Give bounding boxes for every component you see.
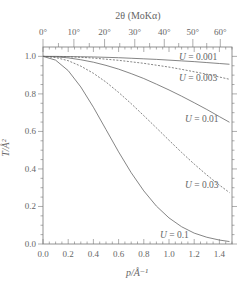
- y-tick-label: 0.4: [25, 164, 37, 174]
- top-tick-label: 50°: [187, 27, 200, 37]
- y-tick-label: 0.0: [25, 239, 37, 249]
- y-tick-label: 0.2: [25, 201, 36, 211]
- x-axis-title: p/Å⁻¹: [125, 267, 148, 278]
- y-axis-title: T/Å²: [0, 138, 11, 156]
- curve-label: U = 0.001: [179, 52, 218, 62]
- debye-waller-chart: 0°10°20°30°40°50°60° 2θ (MoKα) 0.00.20.4…: [0, 0, 250, 286]
- top-tick-label: 20°: [98, 27, 111, 37]
- curve-u-0-1: [43, 56, 229, 241]
- top-tick-label: 60°: [214, 27, 227, 37]
- top-tick-label: 40°: [158, 27, 171, 37]
- x-tick-label: 1.2: [189, 249, 200, 259]
- x-tick-label: 0.8: [138, 249, 150, 259]
- x-tick-label: 0.6: [113, 249, 125, 259]
- curve-label: U = 0.03: [185, 180, 219, 190]
- y-tick-label: 1.0: [25, 51, 37, 61]
- curve-label: U = 0.01: [185, 114, 219, 124]
- top-tick-label: 0°: [39, 27, 48, 37]
- x-tick-label: 1.0: [163, 249, 175, 259]
- x-tick-label: 0.4: [88, 249, 100, 259]
- x-tick-label: 0.2: [63, 249, 74, 259]
- curve-label: U = 0.003: [179, 73, 218, 83]
- y-tick-label: 0.8: [25, 89, 37, 99]
- x-tick-label: 1.4: [214, 249, 226, 259]
- top-tick-label: 10°: [68, 27, 81, 37]
- curves: [43, 56, 229, 241]
- x-tick-label: 0.0: [37, 249, 49, 259]
- curve-u-0-01: [43, 56, 229, 122]
- top-axis-2theta: 0°10°20°30°40°50°60°: [39, 27, 227, 47]
- curve-labels: U = 0.001U = 0.003U = 0.01U = 0.03U = 0.…: [160, 52, 219, 240]
- top-tick-label: 30°: [128, 27, 141, 37]
- curve-label: U = 0.1: [160, 230, 189, 240]
- top-axis-title: 2θ (MoKα): [115, 10, 160, 22]
- y-tick-label: 0.6: [25, 126, 37, 136]
